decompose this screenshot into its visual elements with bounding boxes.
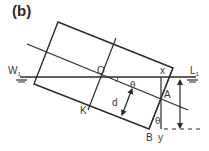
label-b: B	[146, 132, 153, 143]
label-y: y	[158, 132, 163, 143]
label-x: x	[160, 65, 165, 76]
label-a: A	[164, 89, 171, 100]
label-theta-top: θ	[130, 80, 136, 90]
water-surface-icon-right	[187, 80, 198, 82]
label-o: O	[97, 65, 105, 76]
label-w1: W1	[8, 65, 21, 77]
label-k: K	[80, 105, 87, 116]
water-surface-icon-left	[16, 80, 27, 82]
label-l1: L1	[190, 65, 200, 77]
thickness-arrow-d	[122, 89, 132, 115]
label-theta-bottom: θ	[155, 116, 161, 126]
diagram-canvas: W1 L1 O x A K B y d θ θ	[0, 0, 209, 151]
label-d: d	[112, 97, 118, 108]
